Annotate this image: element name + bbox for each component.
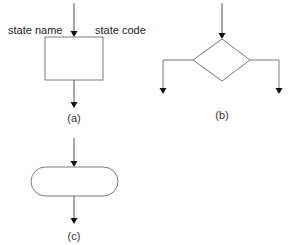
caption-b: (b) xyxy=(215,109,228,121)
arrowhead-in-c xyxy=(71,161,78,167)
caption-a: (a) xyxy=(67,112,80,124)
arrowhead-right-b xyxy=(276,88,283,94)
arrowhead-left-b xyxy=(160,88,167,94)
arrowhead-out-c xyxy=(71,218,78,224)
state-code-label: state code xyxy=(95,24,146,36)
branch-left xyxy=(163,60,193,88)
terminal-stadium xyxy=(31,167,118,196)
decision-diamond xyxy=(193,39,250,81)
panel-a: state name state code (a) xyxy=(8,3,146,124)
panel-b: (b) xyxy=(160,3,283,121)
branch-right xyxy=(250,60,279,88)
caption-c: (c) xyxy=(68,230,81,242)
diagram-canvas: state name state code (a) (b) (c) xyxy=(0,0,289,245)
arrowhead-out-a xyxy=(71,102,78,108)
panel-c: (c) xyxy=(31,138,118,242)
arrowhead-in-a xyxy=(71,31,78,37)
arrowhead-in-b xyxy=(219,33,226,39)
state-name-label: state name xyxy=(8,24,62,36)
state-box xyxy=(45,37,103,80)
